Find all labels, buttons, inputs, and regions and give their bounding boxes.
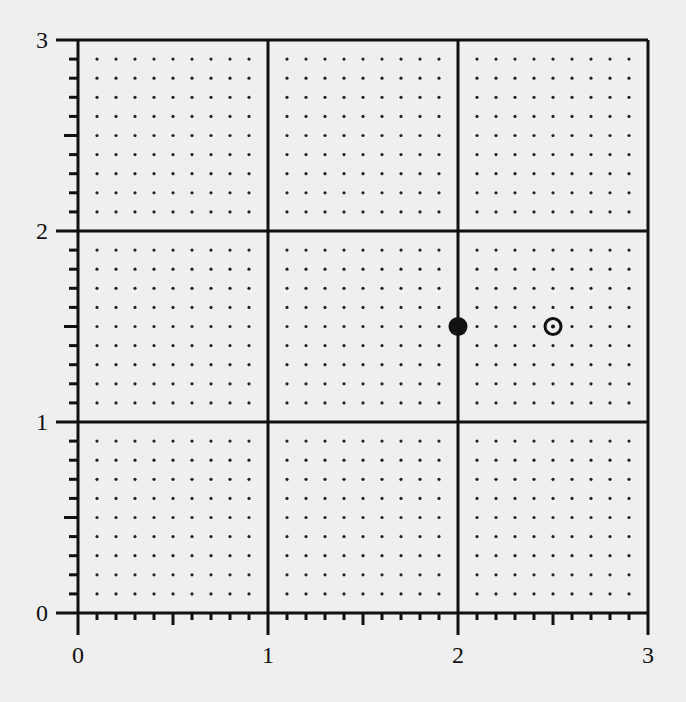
grid-dot [285, 535, 288, 538]
grid-dot [171, 210, 174, 213]
grid-dot [361, 382, 364, 385]
grid-dot [361, 592, 364, 595]
grid-dot [532, 191, 535, 194]
grid-dot [342, 592, 345, 595]
grid-dot [570, 210, 573, 213]
grid-dot [551, 58, 554, 61]
grid-dot [190, 382, 193, 385]
grid-dot [608, 268, 611, 271]
grid-dot [361, 535, 364, 538]
grid-dot [247, 115, 250, 118]
grid-dot [494, 77, 497, 80]
grid-dot [627, 210, 630, 213]
grid-dot [247, 210, 250, 213]
grid-dot [171, 516, 174, 519]
grid-dot [171, 535, 174, 538]
grid-dot [304, 191, 307, 194]
grid-dot [190, 268, 193, 271]
grid-dot [304, 325, 307, 328]
grid-dot [114, 459, 117, 462]
grid-dot [570, 497, 573, 500]
grid-dot [570, 306, 573, 309]
grid-dot [608, 172, 611, 175]
grid-dot [171, 191, 174, 194]
grid-dot [361, 573, 364, 576]
grid-dot [304, 573, 307, 576]
grid-dot [114, 554, 117, 557]
grid-dot [209, 478, 212, 481]
grid-dot [133, 440, 136, 443]
grid-dot [285, 382, 288, 385]
grid-dot [608, 363, 611, 366]
grid-dot [627, 382, 630, 385]
grid-dot [627, 115, 630, 118]
grid-dot [608, 497, 611, 500]
grid-dot [171, 401, 174, 404]
grid-dot [228, 325, 231, 328]
grid-dot [247, 77, 250, 80]
grid-dot [361, 210, 364, 213]
grid-dot [209, 363, 212, 366]
grid-dot [285, 115, 288, 118]
grid-dot [304, 96, 307, 99]
grid-dot [475, 440, 478, 443]
grid-dot [437, 344, 440, 347]
grid-dot [437, 325, 440, 328]
grid-dot [551, 191, 554, 194]
grid-dot [418, 77, 421, 80]
grid-dot [627, 77, 630, 80]
grid-dot [95, 478, 98, 481]
grid-dot [342, 210, 345, 213]
grid-dot [608, 210, 611, 213]
grid-dot [532, 401, 535, 404]
grid-dot [228, 134, 231, 137]
grid-dot [494, 191, 497, 194]
grid-dot [513, 459, 516, 462]
grid-dot [475, 153, 478, 156]
grid-dot [133, 210, 136, 213]
grid-dot [209, 497, 212, 500]
grid-dot [95, 497, 98, 500]
grid-dot [285, 134, 288, 137]
grid-dot [380, 516, 383, 519]
grid-dot [209, 77, 212, 80]
grid-dot [532, 287, 535, 290]
grid-dot [323, 535, 326, 538]
grid-dot [494, 115, 497, 118]
grid-dot [190, 325, 193, 328]
grid-dot [133, 287, 136, 290]
grid-dot [494, 516, 497, 519]
grid-dot [228, 459, 231, 462]
grid-dot [285, 459, 288, 462]
grid-dot [570, 401, 573, 404]
grid-dot [475, 497, 478, 500]
grid-dot [380, 344, 383, 347]
tick-labels: 01230123 [36, 27, 654, 668]
grid-dot [285, 268, 288, 271]
grid-dot [494, 96, 497, 99]
grid-dot [589, 268, 592, 271]
grid-dot [570, 191, 573, 194]
grid-dot [608, 401, 611, 404]
grid-dot [323, 210, 326, 213]
grid-dot [152, 268, 155, 271]
grid-dot [589, 77, 592, 80]
grid-dot [247, 172, 250, 175]
grid-dot [418, 592, 421, 595]
grid-dot [228, 363, 231, 366]
grid-dot [323, 573, 326, 576]
grid-dot [342, 77, 345, 80]
grid-dot [190, 401, 193, 404]
grid-dot [361, 287, 364, 290]
grid-dot [342, 535, 345, 538]
grid-dot [247, 325, 250, 328]
grid-dot [342, 172, 345, 175]
grid-dot [513, 401, 516, 404]
grid-dot [133, 96, 136, 99]
grid-dot [133, 249, 136, 252]
grid-dot [152, 58, 155, 61]
grid-dot [380, 287, 383, 290]
grid-dot [437, 497, 440, 500]
grid-dot [627, 592, 630, 595]
grid-dot [399, 96, 402, 99]
